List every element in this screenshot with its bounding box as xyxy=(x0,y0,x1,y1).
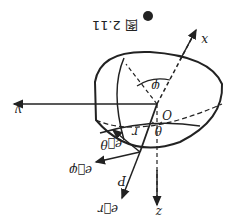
point-label: P xyxy=(117,173,127,187)
e-theta-label: e⃗θ xyxy=(100,137,122,151)
phi-label: φ xyxy=(151,79,160,93)
labels: x y z O φ θ r P e⃗r e⃗θ e⃗φ xyxy=(15,33,208,219)
y-axis-label: y xyxy=(15,103,23,117)
caption-text: 图 2.11 xyxy=(92,18,138,33)
x-axis-label: x xyxy=(201,33,208,47)
e-r-label: e⃗r xyxy=(97,202,118,216)
radius-line xyxy=(140,104,157,152)
z-axis-label: z xyxy=(155,205,163,219)
spherical-coordinates-figure: 图 2.11 x y z O φ θ xyxy=(0,0,238,224)
e-phi-label: e⃗φ xyxy=(69,163,92,177)
theta-label: θ xyxy=(154,123,162,137)
caption: 图 2.11 xyxy=(92,11,153,33)
origin-label: O xyxy=(162,107,172,121)
caption-bullet-icon xyxy=(143,11,153,21)
radius-label: r xyxy=(131,125,138,139)
